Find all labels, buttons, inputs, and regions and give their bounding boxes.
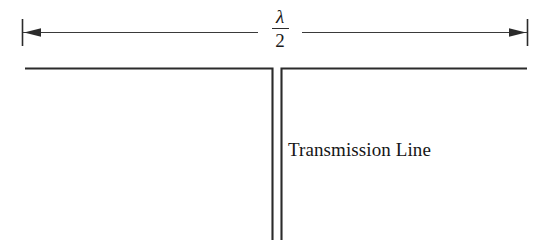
transmission-line-figure: λ 2 Transmission Line — [0, 0, 557, 251]
transmission-line-drawing — [0, 0, 557, 251]
transmission-line-label: Transmission Line — [288, 139, 431, 161]
horizontal-conductor-left — [25, 69, 273, 241]
